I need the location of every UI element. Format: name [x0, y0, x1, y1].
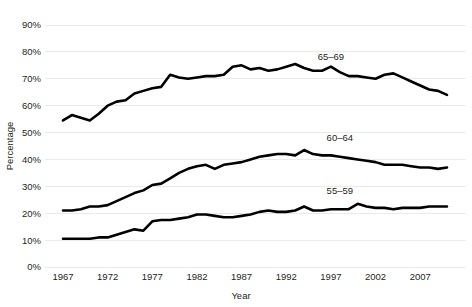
x-tick-label: 1972 — [97, 271, 118, 282]
y-tick-label: 70% — [22, 73, 42, 84]
y-axis-tick-labels: 0%10%20%30%40%50%60%70%80%90% — [22, 19, 42, 272]
y-tick-label: 30% — [22, 181, 42, 192]
y-tick-label: 40% — [22, 154, 42, 165]
y-tick-label: 10% — [22, 235, 42, 246]
series-label-65-69: 65–69 — [318, 51, 344, 62]
x-axis-tick-labels: 196719721977198219871992199720022007 — [52, 271, 430, 282]
series-label-55-59: 55–59 — [327, 185, 353, 196]
y-tick-label: 50% — [22, 127, 42, 138]
x-tick-label: 1992 — [276, 271, 297, 282]
y-tick-label: 90% — [22, 19, 42, 30]
gridlines-group — [45, 25, 466, 267]
x-tick-label: 1987 — [231, 271, 252, 282]
chart-canvas: 0%10%20%30%40%50%60%70%80%90% 1967197219… — [0, 0, 472, 307]
y-tick-label: 0% — [27, 261, 41, 272]
x-tick-label: 1977 — [142, 271, 163, 282]
line-chart: 0%10%20%30%40%50%60%70%80%90% 1967197219… — [0, 0, 472, 307]
data-series-group — [63, 64, 447, 239]
series-label-60-64: 60–64 — [327, 132, 353, 143]
x-tick-label: 1967 — [52, 271, 73, 282]
y-tick-label: 60% — [22, 100, 42, 111]
x-tick-label: 2007 — [410, 271, 431, 282]
x-axis-title: Year — [231, 290, 250, 301]
x-tick-label: 1997 — [320, 271, 341, 282]
series-line-55-59 — [63, 204, 447, 239]
series-line-65-69 — [63, 64, 447, 120]
y-axis-title: Percentage — [4, 122, 15, 171]
y-tick-label: 80% — [22, 46, 42, 57]
y-tick-label: 20% — [22, 208, 42, 219]
x-tick-label: 2002 — [365, 271, 386, 282]
series-annotations-group: 65–6960–6455–59 — [318, 51, 353, 196]
x-tick-label: 1982 — [186, 271, 207, 282]
